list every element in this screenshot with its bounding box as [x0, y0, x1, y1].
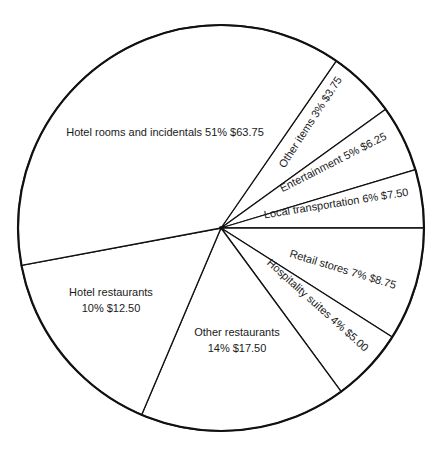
slice-label-hotel-rooms-and-incidentals: Hotel rooms and incidentals 51% $63.75 [66, 126, 264, 138]
slice-label-line: 10% $12.50 [82, 302, 141, 314]
slice-label-line: Other restaurants [194, 326, 280, 338]
pie-chart-canvas: Other items 3% $3.75Entertainment 5% $6.… [0, 0, 438, 452]
slice-label-line: Hotel rooms and incidentals 51% $63.75 [66, 126, 264, 138]
slice-label-line: Hotel restaurants [69, 286, 153, 298]
slice-label-line: 14% $17.50 [208, 342, 267, 354]
pie-chart: Other items 3% $3.75Entertainment 5% $6.… [0, 0, 438, 452]
pie-center-dot [219, 226, 223, 230]
